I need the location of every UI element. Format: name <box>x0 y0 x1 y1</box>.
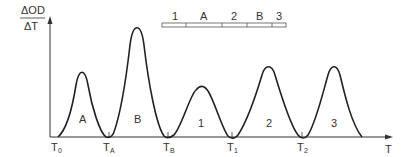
order-bar-label-2: 2 <box>231 10 237 22</box>
svg-text:T: T <box>297 141 304 153</box>
y-axis-arrow-icon <box>48 16 53 24</box>
svg-text:2: 2 <box>304 147 308 154</box>
x-tick-ta: T A <box>103 141 115 154</box>
svg-text:T: T <box>227 141 234 153</box>
peak-label-2: 2 <box>266 117 272 129</box>
x-axis-arrow-icon <box>385 135 393 140</box>
order-bar-label-a: A <box>200 10 208 22</box>
svg-text:T: T <box>51 141 58 153</box>
order-bar-label-3: 3 <box>276 10 282 22</box>
order-bar-strip <box>162 23 286 27</box>
svg-text:B: B <box>170 147 175 154</box>
x-axis-label: T <box>385 143 392 155</box>
x-tick-t0: T 0 <box>51 141 62 154</box>
peak-label-a: A <box>79 113 87 125</box>
y-axis-label-denominator: ΔT <box>24 20 38 32</box>
y-axis-label-numerator: ΔOD <box>21 4 45 16</box>
peak-label-b: B <box>134 113 141 125</box>
order-bar: 1 A 2 B 3 <box>162 10 286 27</box>
x-tick-tb: T B <box>163 141 175 154</box>
svg-text:T: T <box>163 141 170 153</box>
melting-curve-diagram: ΔOD ΔT T A B 1 2 3 T 0 T A T B T 1 T 2 1 <box>0 0 410 157</box>
order-bar-label-1: 1 <box>172 10 178 22</box>
svg-text:0: 0 <box>58 147 62 154</box>
svg-text:T: T <box>103 141 110 153</box>
svg-text:A: A <box>110 147 115 154</box>
svg-text:1: 1 <box>234 147 238 154</box>
x-tick-t1: T 1 <box>227 141 238 154</box>
x-tick-t2: T 2 <box>297 141 308 154</box>
peak-label-3: 3 <box>331 117 337 129</box>
derivative-melting-curve <box>58 28 362 138</box>
peak-label-1: 1 <box>198 117 204 129</box>
order-bar-label-b: B <box>256 10 263 22</box>
